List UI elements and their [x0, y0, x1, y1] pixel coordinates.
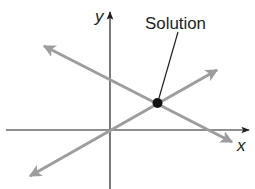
- system-graph: y x Solution: [0, 0, 255, 189]
- x-axis-label: x: [236, 136, 246, 155]
- solution-leader-line: [159, 32, 178, 98]
- y-axis-label: y: [94, 7, 105, 26]
- solution-label: Solution: [145, 15, 206, 32]
- solution-point: [153, 98, 163, 108]
- decreasing-line: [44, 46, 232, 142]
